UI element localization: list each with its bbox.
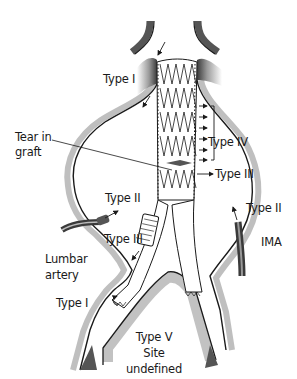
- ima-vessel: [238, 222, 242, 276]
- type4-arrows: [199, 106, 214, 160]
- stent-graft-main-body: [157, 59, 197, 200]
- renal-artery-left: [132, 21, 154, 54]
- label-lumbar-line1: Lumbar: [45, 252, 88, 266]
- type1-top-arrow-in: [158, 42, 165, 55]
- type2-left-arrow: [105, 211, 118, 218]
- label-type2-left: Type II: [105, 191, 140, 205]
- label-type1-bottom: Type I: [56, 296, 88, 310]
- label-type5-line2: Site: [124, 346, 184, 360]
- renal-artery-right: [194, 21, 218, 54]
- label-type4: Type IV: [208, 135, 248, 149]
- label-type3-right: Type III: [215, 167, 254, 181]
- label-tear-line2: graft: [15, 145, 41, 159]
- type3-left-arrow: [132, 251, 139, 260]
- label-type3-left: Type III: [104, 232, 143, 246]
- label-ima: IMA: [261, 235, 282, 249]
- stent-graft-left-limb: [112, 200, 168, 308]
- label-type1-top: Type I: [103, 72, 135, 86]
- label-type2-right: Type II: [246, 201, 281, 215]
- label-type5-line3: undefined: [119, 362, 189, 376]
- label-type5-line1: Type V: [124, 330, 184, 344]
- label-lumbar-line2: artery: [45, 268, 79, 282]
- endoleak-diagram: [0, 0, 297, 379]
- label-tear-line1: Tear in: [15, 130, 52, 144]
- type2-right-arrow: [233, 207, 237, 220]
